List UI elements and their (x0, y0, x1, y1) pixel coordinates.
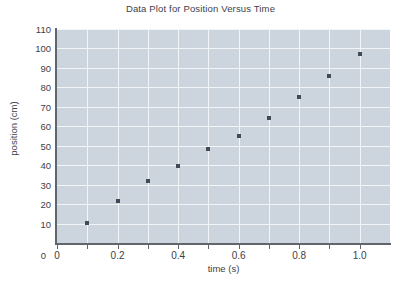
gridline-vertical (118, 29, 119, 243)
data-point (176, 164, 180, 168)
gridline-horizontal (57, 29, 390, 30)
gridline-vertical (148, 29, 149, 243)
gridline-vertical (208, 29, 209, 243)
y-axis-line (55, 28, 57, 244)
plot-area (57, 29, 390, 243)
data-point (206, 147, 210, 151)
gridline-horizontal (57, 126, 390, 127)
x-axis-line (55, 243, 391, 245)
y-axis-tick-label: 100 (35, 43, 51, 54)
gridline-horizontal (57, 165, 390, 166)
x-axis-title: time (s) (57, 263, 390, 274)
gridline-horizontal (57, 107, 390, 108)
gridline-vertical (299, 29, 300, 243)
gridline-vertical (269, 29, 270, 243)
y-axis-tick-label: 40 (40, 160, 51, 171)
data-point (327, 74, 331, 78)
x-axis-tick (87, 244, 88, 249)
y-axis-tick-label: 80 (40, 82, 51, 93)
x-axis-tick (329, 244, 330, 249)
scatter-chart-figure: Data Plot for Position Versus Time 00.20… (0, 0, 401, 281)
gridline-horizontal (57, 224, 390, 225)
gridline-horizontal (57, 87, 390, 88)
gridline-vertical (360, 29, 361, 243)
y-axis-tick-label: 50 (40, 140, 51, 151)
gridline-horizontal (57, 68, 390, 69)
x-axis-tick (118, 244, 119, 249)
data-point (358, 52, 362, 56)
y-axis-tick-label: 110 (36, 24, 51, 35)
chart-title: Data Plot for Position Versus Time (0, 3, 401, 14)
data-point (146, 179, 150, 183)
gridline-horizontal (57, 185, 390, 186)
gridline-horizontal (57, 204, 390, 205)
y-axis-tick-label: 20 (40, 199, 51, 210)
x-axis-tick (148, 244, 149, 249)
x-axis-tick (269, 244, 270, 249)
x-axis-tick-label: 1.0 (353, 250, 367, 261)
gridline-horizontal (57, 146, 390, 147)
gridline-vertical (329, 29, 330, 243)
data-point (85, 221, 89, 225)
x-axis-tick (360, 244, 361, 249)
gridline-vertical (87, 29, 88, 243)
x-axis-tick-label: 0 (54, 250, 60, 261)
y-axis-title: position (cm) (8, 94, 19, 164)
data-point (267, 116, 271, 120)
x-axis-tick-label: 0.4 (171, 250, 185, 261)
y-axis-tick-label: 70 (40, 101, 51, 112)
x-axis-tick (239, 244, 240, 249)
data-point (116, 199, 120, 203)
x-axis-tick (299, 244, 300, 249)
x-axis-tick-label: 0.6 (232, 250, 246, 261)
gridline-horizontal (57, 48, 390, 49)
data-point (237, 134, 241, 138)
x-axis-tick (178, 244, 179, 249)
data-point (297, 95, 301, 99)
y-axis-tick-label: 0 (41, 250, 46, 261)
x-axis-tick (208, 244, 209, 249)
x-axis-tick-label: 0.8 (292, 250, 306, 261)
y-axis-tick-label: 60 (40, 121, 51, 132)
gridline-vertical (178, 29, 179, 243)
x-axis-tick-label: 0.2 (111, 250, 125, 261)
x-axis-tick (57, 244, 58, 249)
y-axis-tick-label: 10 (40, 218, 51, 229)
y-axis-tick-label: 90 (40, 62, 51, 73)
y-axis-tick-label: 30 (40, 179, 51, 190)
